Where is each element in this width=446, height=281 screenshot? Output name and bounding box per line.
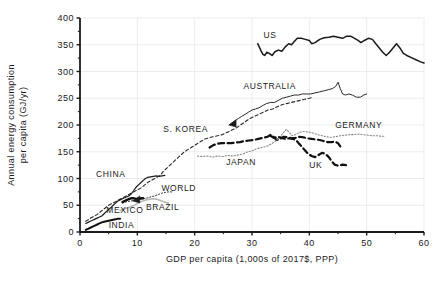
y-tick-label: 400 [57,13,74,23]
y-tick-label: 150 [57,147,74,157]
series-label-india: INDIA [109,220,135,230]
y-tick-label: 50 [63,200,74,210]
series-label-germany: GERMANY [335,120,382,130]
series-line-us [258,36,424,63]
series-label-uk: UK [309,160,322,170]
x-tick-label: 20 [189,238,200,248]
series-line-uk [270,136,346,166]
x-tick-label: 30 [246,238,257,248]
y-tick-label: 0 [68,227,74,237]
series-label-world: WORLD [161,183,196,193]
series-label-s-korea: S. KOREA [163,124,208,134]
x-tick-label: 40 [304,238,315,248]
series-label-japan: JAPAN [226,157,256,167]
chart-canvas: USAUSTRALIAS. KOREAJAPANGERMANYUKCHINAWO… [0,0,446,281]
series-label-china: CHINA [96,169,125,179]
series-label-us: US [263,30,276,40]
y-axis-title-line1: Annual energy consumption [6,64,16,186]
x-axis-title: GDP per capita (1,000s of 2017$, PPP) [166,254,338,264]
y-tick-label: 100 [57,174,74,184]
x-tick-label: 10 [132,238,143,248]
y-tick-label: 250 [57,93,74,103]
australia-arrow [229,120,236,127]
series-line-s-korea [86,97,313,221]
x-tick-label: 60 [418,238,429,248]
series-label-mexico: MEXICO [106,205,143,215]
y-tick-label: 350 [57,40,74,50]
y-tick-label: 200 [57,120,74,130]
series-label-australia: AUSTRALIA [243,81,296,91]
y-tick-label: 300 [57,67,74,77]
energy-gdp-chart: USAUSTRALIAS. KOREAJAPANGERMANYUKCHINAWO… [0,0,446,281]
y-axis-title-line2: per capita (GJ/yr) [18,87,28,164]
x-tick-label: 0 [77,238,83,248]
x-tick-label: 50 [361,238,372,248]
series-label-brazil: BRAZIL [146,202,179,212]
series-line-germany [198,129,385,157]
